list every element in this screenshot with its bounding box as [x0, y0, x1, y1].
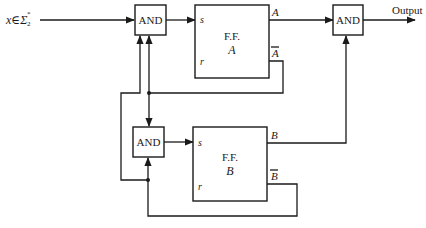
- ffb-q-label: B: [271, 129, 278, 141]
- and-gate-bottom: AND: [133, 127, 164, 157]
- and-gate-output: AND: [333, 5, 363, 35]
- ffb-title: F.F.: [222, 151, 238, 163]
- ffb-reset-label: r: [198, 181, 202, 192]
- ffa-reset-label: r: [200, 56, 204, 67]
- ffa-title: F.F.: [224, 30, 240, 42]
- junction-dot-bbar: [146, 178, 150, 182]
- and-gate-top-label: AND: [139, 14, 163, 26]
- and-gate-output-label: AND: [336, 14, 360, 26]
- input-label: x∈Σ: [5, 13, 27, 27]
- output-label: Output: [392, 4, 423, 16]
- ffa-name: A: [227, 43, 236, 57]
- flipflop-b: F.F. B s r B B: [193, 127, 278, 201]
- ffa-qbar-label: A: [271, 47, 279, 59]
- flipflop-a: F.F. A s r A A: [195, 5, 279, 78]
- ffb-set-label: s: [198, 137, 202, 148]
- sequential-circuit-diagram: x∈Σ * 2 AND F.F. A s r A A AND Output AN…: [0, 0, 426, 228]
- ffb-qbar-label: B: [271, 170, 278, 182]
- and-gate-top: AND: [135, 5, 166, 35]
- input-subscript: 2: [27, 20, 31, 28]
- ffa-set-label: s: [200, 14, 204, 25]
- and-gate-bottom-label: AND: [137, 136, 161, 148]
- input-superscript: *: [27, 10, 31, 18]
- ffa-q-label: A: [271, 6, 279, 18]
- ffb-name: B: [226, 164, 234, 178]
